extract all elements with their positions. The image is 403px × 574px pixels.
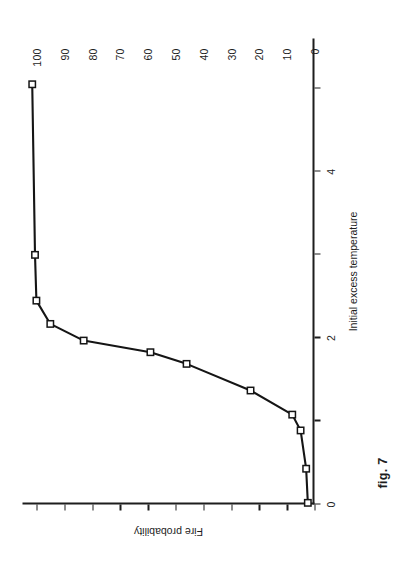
series-data-point [47, 320, 53, 326]
series-data-point [33, 297, 39, 303]
x-axis-tick-label: 2 [324, 335, 336, 341]
y-axis-tick [231, 504, 232, 510]
y-axis-tick [119, 504, 120, 510]
x-axis-tick [314, 419, 320, 420]
x-axis-tick-label: 0 [324, 501, 336, 507]
x-axis-tick [314, 336, 320, 337]
rotated-figure-wrapper: 0102030405060708090100 024 Fire probabil… [0, 0, 403, 574]
y-axis-tick [36, 504, 37, 510]
series-data-point [80, 337, 86, 343]
y-axis-tick [314, 504, 315, 510]
figure-caption: fig. 7 [375, 457, 389, 488]
x-axis-tick [314, 253, 320, 254]
series-data-point [289, 411, 295, 417]
x-axis-title: Initial excess temperature [346, 211, 358, 331]
series-data-point [247, 387, 253, 393]
series-line [32, 84, 308, 503]
series-data-point [31, 251, 37, 257]
fire-probability-series [22, 38, 314, 504]
plot-area: 0102030405060708090100 024 Fire probabil… [22, 38, 314, 504]
x-axis-tick [314, 503, 320, 504]
series-data-point [297, 427, 303, 433]
series-data-point [29, 81, 35, 87]
series-data-point [302, 465, 308, 471]
x-axis-tick [314, 87, 320, 88]
y-axis-tick [175, 504, 176, 510]
y-axis-tick [147, 504, 148, 510]
figure-page: 0102030405060708090100 024 Fire probabil… [0, 0, 403, 574]
y-axis-tick [92, 504, 93, 510]
series-data-point [304, 499, 310, 505]
series-data-point [183, 360, 189, 366]
y-axis-tick [203, 504, 204, 510]
y-axis-tick [64, 504, 65, 510]
series-data-point [147, 349, 153, 355]
y-axis-title: Fire probability [134, 526, 203, 538]
x-axis-tick-label: 4 [324, 168, 336, 174]
y-axis-tick [286, 504, 287, 510]
y-axis-tick [258, 504, 259, 510]
x-axis-tick [314, 170, 320, 171]
